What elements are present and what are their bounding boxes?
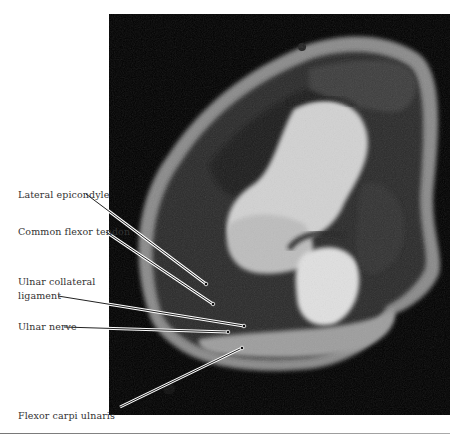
noise-texture bbox=[109, 14, 450, 415]
bottom-rule bbox=[0, 433, 450, 434]
label-flexor-carpi-ulnaris: Flexor carpi ulnaris bbox=[18, 410, 115, 421]
label-common-flexor-tendon: Common flexor tendon bbox=[18, 226, 130, 237]
label-ulnar-nerve: Ulnar nerve bbox=[18, 321, 77, 332]
label-ulnar-collateral-ligament-line1: Ulnar collateral bbox=[18, 276, 95, 287]
label-ulnar-collateral-ligament-line2: ligament bbox=[18, 290, 61, 301]
mri-scan-graphic bbox=[109, 14, 450, 415]
label-lateral-epicondyle: Lateral epicondyle bbox=[18, 189, 109, 200]
mri-image bbox=[109, 14, 450, 415]
